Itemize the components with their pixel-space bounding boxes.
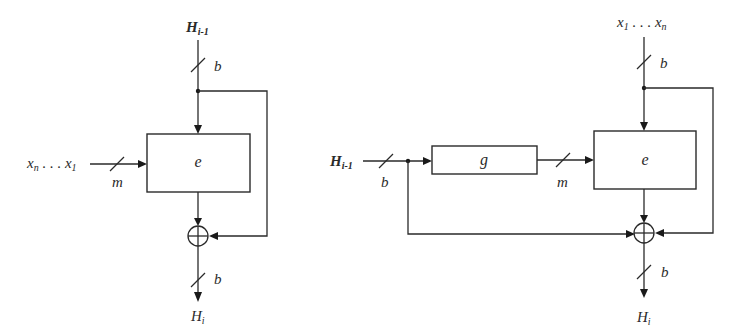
left-cipher-output-arrowhead bbox=[194, 218, 202, 226]
left-diagram: Hi-1 b xn . . . x1 m e b Hi bbox=[26, 19, 267, 326]
left-chaining-width-label: b bbox=[214, 58, 222, 74]
left-feedforward-arrowhead bbox=[209, 232, 218, 240]
right-chaining-width-label: b bbox=[381, 174, 389, 190]
right-output-arrowhead bbox=[640, 289, 648, 298]
left-cipher-key-arrowhead bbox=[194, 125, 202, 134]
right-chaining-arrowhead bbox=[423, 157, 432, 165]
right-diagram: x1 . . . xn b Hi-1 b g m e bbox=[329, 14, 713, 327]
left-message-width-label: m bbox=[112, 174, 123, 190]
right-key-width-label: m bbox=[557, 174, 568, 190]
right-message-input-label: x1 . . . xn bbox=[616, 14, 667, 32]
right-message-arrowhead bbox=[640, 122, 648, 131]
left-output-arrowhead bbox=[194, 292, 202, 302]
left-xor-icon bbox=[188, 226, 208, 246]
right-cipher-output-arrowhead bbox=[640, 215, 648, 223]
right-xor-icon bbox=[634, 223, 654, 243]
right-output-label: Hi bbox=[636, 309, 651, 327]
right-output-width-label: b bbox=[661, 264, 669, 280]
right-chaining-input-label: Hi-1 bbox=[329, 153, 353, 171]
left-cipher-block-label: e bbox=[194, 153, 201, 170]
right-key-arrowhead bbox=[585, 156, 594, 164]
right-feedforward-arrowhead bbox=[655, 229, 664, 237]
left-output-label: Hi bbox=[190, 308, 205, 326]
diagram-canvas: Hi-1 b xn . . . x1 m e b Hi bbox=[0, 0, 734, 336]
right-message-width-label: b bbox=[660, 55, 668, 71]
left-output-width-label: b bbox=[214, 271, 222, 287]
left-message-arrowhead bbox=[138, 160, 147, 168]
left-message-input-label: xn . . . x1 bbox=[26, 155, 77, 173]
right-key-transform-block-label: g bbox=[480, 151, 488, 169]
right-cipher-block-label: e bbox=[641, 151, 648, 168]
left-chaining-input-label: Hi-1 bbox=[185, 19, 209, 37]
